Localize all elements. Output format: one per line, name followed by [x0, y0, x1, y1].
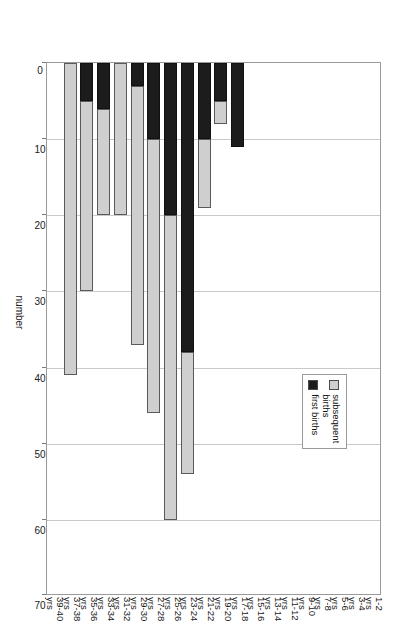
bar-segment-subsequent-births	[97, 109, 110, 216]
bar-segment-subsequent-births	[198, 139, 211, 208]
value-axis-label: 70	[34, 600, 45, 611]
category-label-range: 11-12	[290, 597, 300, 625]
bar	[80, 63, 93, 291]
legend-entry: first births	[309, 380, 321, 443]
category-label-range: 7-8	[323, 597, 333, 625]
category-label-range: 37-38	[72, 597, 82, 625]
category-label-range: 21-22	[206, 597, 216, 625]
bar-segment-first-births	[147, 63, 160, 139]
category-label-range: 35-36	[89, 597, 99, 625]
bar-segment-first-births	[164, 63, 177, 215]
bar-segment-first-births	[231, 63, 244, 147]
gridline	[47, 368, 380, 369]
value-axis-label: 20	[34, 220, 45, 231]
bar-segment-subsequent-births	[114, 63, 127, 215]
bar	[147, 63, 160, 413]
bar-segment-subsequent-births	[181, 352, 194, 474]
bar	[131, 63, 144, 345]
bar-segment-first-births	[214, 63, 227, 101]
category-label-range: 33-34	[106, 597, 116, 625]
category-label-range: 25-26	[173, 597, 183, 625]
bar-segment-subsequent-births	[80, 101, 93, 291]
category-label-range: 3-4	[357, 597, 367, 625]
legend-label: first births	[311, 394, 322, 435]
bar	[164, 63, 177, 520]
bar	[198, 63, 211, 208]
bar-segment-subsequent-births	[64, 63, 77, 375]
bar-segment-subsequent-births	[147, 139, 160, 413]
bar	[97, 63, 110, 215]
chart-canvas: 010203040506070 number 1-2yrs3-4yrs5-6yr…	[0, 0, 403, 625]
category-label-range: 13-14	[273, 597, 283, 625]
legend-entry: subsequentbirths	[322, 380, 342, 443]
category-label-range: 39-40	[55, 597, 65, 625]
category-label-range: 15-16	[256, 597, 266, 625]
plot-area	[46, 62, 381, 595]
category-axis-label: 39-40yrs	[45, 597, 65, 625]
legend-swatch	[309, 380, 319, 390]
category-label-range: 1-2	[374, 597, 384, 625]
category-label-range: 9-10	[307, 597, 317, 625]
legend-swatch	[330, 380, 340, 390]
gridline	[47, 291, 380, 292]
bar	[181, 63, 194, 474]
category-label-range: 29-30	[139, 597, 149, 625]
bar-chart: 010203040506070 number 1-2yrs3-4yrs5-6yr…	[0, 0, 403, 625]
value-axis-tick	[42, 519, 46, 520]
category-label-range: 5-6	[340, 597, 350, 625]
bar-segment-first-births	[97, 63, 110, 109]
category-label-range: 27-28	[156, 597, 166, 625]
bar-segment-first-births	[131, 63, 144, 86]
bar-segment-first-births	[80, 63, 93, 101]
value-axis-title: number	[14, 0, 25, 625]
category-axis: 1-2yrs3-4yrs5-6yrs7-8yrs9-10yrs11-12yrs1…	[46, 595, 381, 625]
bar	[64, 63, 77, 375]
chart-legend: subsequentbirthsfirst births	[303, 374, 348, 449]
value-axis-tick	[42, 214, 46, 215]
bar-segment-subsequent-births	[214, 101, 227, 124]
category-label-range: 31-32	[122, 597, 132, 625]
value-axis-tick	[42, 367, 46, 368]
bar	[214, 63, 227, 124]
legend-label-cont: births	[322, 394, 333, 417]
gridline	[47, 215, 380, 216]
bar	[114, 63, 127, 215]
value-axis-tick	[42, 62, 46, 63]
category-label-unit: yrs	[45, 597, 55, 625]
value-axis-label: 0	[37, 65, 43, 76]
value-axis-tick	[42, 138, 46, 139]
category-label-range: 19-20	[223, 597, 233, 625]
bar	[231, 63, 244, 147]
value-axis-tick	[42, 443, 46, 444]
bar-segment-first-births	[181, 63, 194, 352]
value-axis-tick	[42, 290, 46, 291]
category-label-range: 17-18	[240, 597, 250, 625]
bar-segment-first-births	[198, 63, 211, 139]
bar-segment-subsequent-births	[164, 215, 177, 520]
gridline	[47, 520, 380, 521]
value-axis-label: 30	[34, 296, 45, 307]
value-axis-label: 40	[34, 372, 45, 383]
value-axis-label: 60	[34, 524, 45, 535]
value-axis-label: 50	[34, 448, 45, 459]
legend-label: subsequent	[332, 394, 343, 443]
category-label-range: 23-24	[189, 597, 199, 625]
value-axis-label: 10	[34, 144, 45, 155]
bar-segment-subsequent-births	[131, 86, 144, 345]
